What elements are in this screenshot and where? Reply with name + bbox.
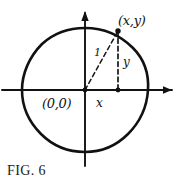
origin-point-marker — [83, 88, 88, 93]
radius-length-label: 1 — [94, 46, 101, 59]
point-coordinate-label: (x,y) — [118, 13, 145, 28]
radius-dashed-line — [85, 31, 118, 90]
figure-container: (x,y) (0,0) x y 1 FIG. 6 — [0, 0, 189, 187]
circle-point-marker — [115, 28, 120, 33]
figure-caption: FIG. 6 — [7, 163, 46, 179]
y-component-label: y — [123, 55, 130, 69]
x-component-label: x — [96, 96, 103, 110]
unit-circle-diagram — [0, 0, 189, 187]
x-axis-arrowhead — [163, 86, 172, 94]
foot-point-marker — [116, 88, 121, 93]
y-axis-arrowhead — [81, 11, 88, 21]
origin-coordinate-label: (0,0) — [42, 96, 71, 111]
